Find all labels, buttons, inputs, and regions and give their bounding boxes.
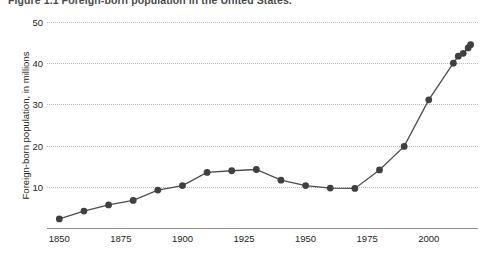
y-tick-label: 20 bbox=[3, 140, 43, 151]
x-tick-label: 1950 bbox=[295, 233, 316, 244]
data-point-marker bbox=[376, 167, 383, 174]
data-point-marker bbox=[81, 208, 88, 215]
data-point-marker bbox=[130, 197, 137, 204]
data-point-marker bbox=[450, 60, 457, 67]
x-tick-label: 1925 bbox=[233, 233, 254, 244]
x-axis-tick-labels: 1850187519001925195019752000 bbox=[47, 233, 478, 249]
data-series-line bbox=[47, 22, 478, 228]
page-title: Figure 1.1 Foreign-born population in th… bbox=[8, 0, 292, 6]
data-point-marker bbox=[278, 177, 285, 184]
figure-container: Figure 1.1 Foreign-born population in th… bbox=[0, 0, 500, 257]
x-tick-label: 1875 bbox=[110, 233, 131, 244]
plot-area bbox=[47, 22, 478, 228]
x-tick-label: 1850 bbox=[49, 233, 70, 244]
data-point-marker bbox=[228, 167, 235, 174]
data-point-marker bbox=[253, 166, 260, 173]
y-tick-label: 40 bbox=[3, 58, 43, 69]
data-point-marker bbox=[302, 182, 309, 189]
y-tick-label: 30 bbox=[3, 99, 43, 110]
data-point-marker bbox=[204, 169, 211, 176]
data-point-marker bbox=[401, 143, 408, 150]
y-tick-label: 50 bbox=[3, 17, 43, 28]
x-tick-label: 2000 bbox=[418, 233, 439, 244]
data-point-marker bbox=[56, 216, 63, 223]
series-polyline bbox=[59, 45, 470, 219]
y-axis-tick-labels: 1020304050 bbox=[0, 22, 43, 228]
data-point-marker bbox=[154, 187, 161, 194]
data-point-marker bbox=[327, 185, 334, 192]
data-point-marker bbox=[425, 96, 432, 103]
x-tick-label: 1900 bbox=[172, 233, 193, 244]
data-point-marker bbox=[460, 50, 467, 57]
data-point-marker bbox=[105, 202, 112, 209]
data-point-marker bbox=[351, 185, 358, 192]
data-point-marker bbox=[179, 182, 186, 189]
data-point-marker bbox=[467, 41, 474, 48]
x-tick-label: 1975 bbox=[357, 233, 378, 244]
x-axis-line bbox=[47, 228, 478, 229]
y-tick-label: 10 bbox=[3, 181, 43, 192]
